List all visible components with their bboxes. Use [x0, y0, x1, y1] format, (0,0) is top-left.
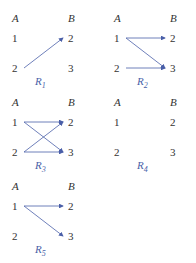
relation-arrow [24, 38, 63, 68]
relation-arrow [126, 38, 165, 68]
relation-arrow [24, 206, 63, 236]
arrows-layer [0, 0, 196, 263]
